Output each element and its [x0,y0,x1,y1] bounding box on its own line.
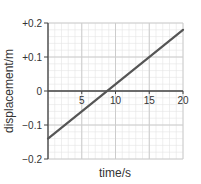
displacement-time-chart: +0.2+0.10−0.1−0.25101520 time/s displace… [0,0,201,184]
x-axis-label: time/s [99,166,131,180]
y-tick-label: −0.2 [22,154,42,165]
x-tick-label: 10 [110,95,122,106]
y-axis-label: displacement/m [2,49,16,133]
x-tick-label: 5 [79,95,85,106]
y-tick-label: −0.1 [22,120,42,131]
y-tick-label: +0.1 [22,52,42,63]
y-tick-label: +0.2 [22,18,42,29]
x-tick-label: 15 [144,95,156,106]
y-tick-label: 0 [36,86,42,97]
x-tick-label: 20 [177,95,189,106]
